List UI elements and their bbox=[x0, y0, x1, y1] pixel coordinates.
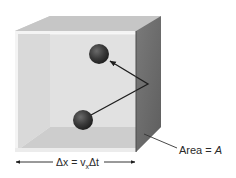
area-symbol: A bbox=[214, 144, 222, 156]
box-front-face bbox=[15, 31, 136, 152]
box-front-rim-bottom bbox=[15, 148, 136, 152]
molecule-before-collision bbox=[73, 110, 93, 130]
gas-molecule-box-diagram: Area = A Δx = vxΔt bbox=[0, 0, 236, 178]
area-label: Area = A bbox=[179, 144, 222, 156]
box-top-face bbox=[15, 16, 161, 31]
distance-label: Δx = vxΔt bbox=[56, 156, 99, 170]
box-front-rim-left bbox=[15, 31, 18, 152]
molecule-after-collision bbox=[89, 44, 109, 64]
area-leader-line bbox=[144, 134, 177, 148]
